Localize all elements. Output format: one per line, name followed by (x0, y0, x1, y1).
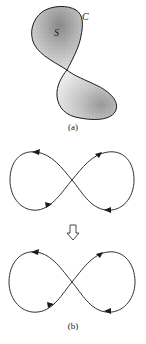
caption-a: (a) (68, 122, 78, 132)
arrow-icon (104, 207, 111, 213)
down-arrow-icon (67, 225, 79, 240)
surface-label-s: S (54, 27, 59, 38)
figure-eight-bottom-curve (9, 252, 135, 312)
figure-eight-top (10, 149, 134, 213)
arrow-icon (96, 252, 103, 258)
figure-eight-bottom (9, 249, 135, 314)
figure-eight-top-curve (10, 152, 134, 210)
arrow-icon (104, 308, 111, 314)
curve-label-c: C (82, 11, 89, 22)
diagram-figure: S C (a) (b) (0, 0, 146, 344)
arrow-icon (95, 152, 102, 158)
arrow-icon (32, 149, 40, 155)
caption-b: (b) (68, 321, 79, 331)
arrow-icon (45, 202, 52, 208)
arrow-icon (31, 249, 39, 255)
panel-a: S C (a) (32, 6, 117, 132)
